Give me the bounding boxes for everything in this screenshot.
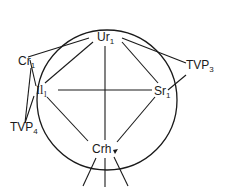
edge-ur1-cr1	[28, 38, 89, 57]
edge-il1-crh	[47, 97, 88, 141]
node-crh: Crh	[92, 142, 111, 156]
edge-sr1-crh	[117, 97, 155, 142]
edge-crh-down-left	[83, 158, 96, 186]
node-tvp3: TVP3	[186, 58, 214, 74]
node-tvp4: TVP4	[10, 120, 38, 136]
edge-ur1-tvp3	[122, 38, 186, 63]
edge-sr1-tick	[168, 75, 186, 90]
edge-ur1-sr1	[122, 42, 158, 83]
node-ur1: Ur1	[97, 30, 115, 46]
node-cr1: Cr1	[18, 54, 36, 70]
edge-ur1-il1	[45, 42, 93, 83]
diagram-canvas: Ur1 Cr1 Il1 Sr1 Crh TVP3 TVP4	[0, 0, 226, 187]
node-sr1: Sr1	[154, 84, 171, 100]
crh-marker-icon	[113, 149, 118, 154]
edge-crh-down-right	[114, 157, 128, 186]
node-il1: Il1	[36, 83, 47, 99]
